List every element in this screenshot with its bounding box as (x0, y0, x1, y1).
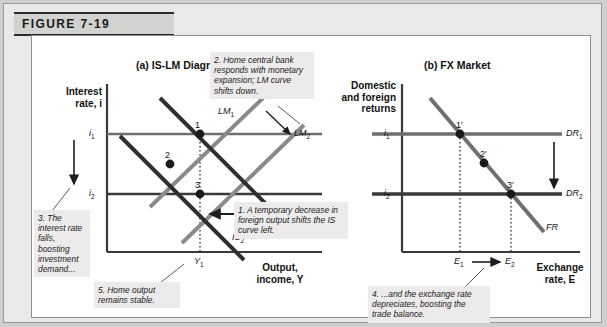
point-2-prime (480, 159, 489, 168)
point-label-2-prime: 2′ (480, 149, 487, 159)
point-label-3: 3 (195, 180, 200, 190)
point-1 (196, 130, 205, 139)
curve-label-dr2: DR2 (566, 188, 583, 200)
panel-b-y-axis-label: Domestic and foreign returns (310, 80, 396, 115)
point-2 (166, 160, 175, 169)
curve-label-fr: FR (546, 222, 558, 232)
panel-b-tick-i2: i2 (384, 188, 390, 200)
curve-label-dr1: DR1 (566, 128, 583, 140)
chart-canvas: (a) IS-LM Diagram (b) FX Market (31, 35, 591, 318)
leader-note5 (160, 264, 184, 283)
panel-a-x-axis-label: Output, income, Y (238, 262, 322, 285)
note-3-interest-rate-falls: 3. The interest rate falls, boosting inv… (34, 210, 90, 277)
figure-container: FIGURE 7-19 (a) IS-LM Diagram (b) FX Mar… (0, 0, 607, 327)
panel-b-tick-e1: E1 (454, 256, 464, 268)
point-label-2: 2 (165, 150, 170, 160)
panel-b-x-axis-label: Exchange rate, E (524, 262, 596, 285)
figure-title-bar: FIGURE 7-19 (14, 12, 174, 36)
point-1-prime (456, 130, 465, 139)
arrow-lm-shift (266, 111, 290, 134)
panel-a-y-axis-label: Interest rate, i (34, 86, 102, 109)
leader-note2 (278, 106, 300, 124)
point-3 (196, 190, 205, 199)
panel-b-tick-i1: i1 (384, 128, 390, 140)
point-label-1-prime: 1′ (456, 120, 463, 130)
panel-a-tick-i2: i2 (89, 188, 95, 200)
leader-note4 (464, 268, 484, 288)
curve-label-lm1: LM1 (218, 106, 234, 118)
leader-note3 (52, 188, 70, 211)
panel-b-tick-e2: E2 (505, 256, 515, 268)
note-5-output-stable: 5. Home output remains stable. (94, 282, 180, 308)
point-label-3-prime: 3′ (507, 180, 514, 190)
panel-a-tick-i1: i1 (89, 128, 95, 140)
note-1-is-shift-left: 1. A temporary decrease in foreign outpu… (234, 202, 348, 239)
point-label-1: 1 (195, 120, 200, 130)
panel-a-tick-y1: Y1 (194, 256, 204, 268)
figure-plate: FIGURE 7-19 (a) IS-LM Diagram (b) FX Mar… (3, 3, 602, 323)
point-3-prime (507, 190, 516, 199)
figure-label: FIGURE 7-19 (22, 17, 110, 31)
note-4-exchange-rate-depreciates: 4. ...and the exchange rate depreciates,… (368, 286, 490, 323)
curve-label-lm2: LM2 (294, 128, 310, 140)
note-2-monetary-expansion: 2. Home central bank responds with monet… (210, 52, 314, 99)
